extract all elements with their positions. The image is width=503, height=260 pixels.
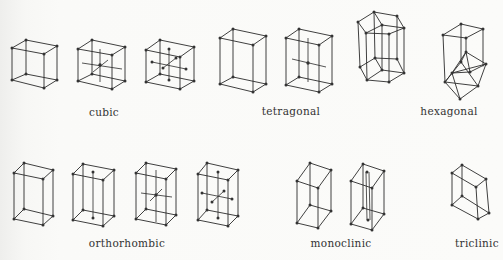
cubic-face-centered-cell <box>145 39 196 91</box>
orthorhombic-body-centered-cell <box>135 162 178 227</box>
label-orthorhombic: orthorhombic <box>89 237 165 249</box>
label-hexagonal: hexagonal <box>420 105 477 117</box>
monoclinic-base-centered-cell <box>350 163 386 232</box>
crystal-systems-diagram: cubic tetragonal hexagonal orthorhombic … <box>0 0 503 260</box>
cubic-simple-cell <box>11 39 59 90</box>
label-triclinic: triclinic <box>455 237 499 249</box>
label-tetragonal: tetragonal <box>262 105 320 117</box>
triclinic-cell <box>451 164 491 221</box>
rhombohedral-cell <box>442 23 488 101</box>
lattice-drawings <box>0 0 503 260</box>
label-cubic: cubic <box>89 106 119 118</box>
hexagonal-prism-cell <box>357 11 406 84</box>
monoclinic-simple-cell <box>296 162 333 230</box>
tetragonal-body-centered-cell <box>285 28 334 94</box>
tetragonal-simple-cell <box>219 28 268 94</box>
orthorhombic-simple-cell <box>13 162 55 227</box>
orthorhombic-base-centered-cell <box>72 163 116 228</box>
cubic-body-centered-cell <box>77 39 127 91</box>
orthorhombic-face-centered-cell <box>197 162 240 228</box>
label-monoclinic: monoclinic <box>311 237 372 249</box>
